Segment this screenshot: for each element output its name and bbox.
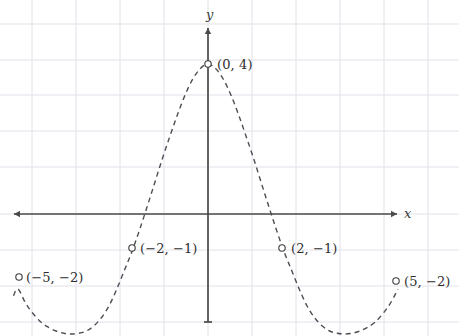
grid-lines [0,0,459,336]
point-marker [279,245,285,251]
axis-arrowhead [391,211,397,217]
axis-arrowhead [14,211,20,217]
graph-figure: x y (−5, −2)(−2, −1)(0, 4)(2, −1)(5, −2) [0,0,459,336]
point-marker [16,274,22,280]
axis-arrowhead [205,28,211,34]
coordinate-plane [0,0,459,336]
point-coordinate-label: (2, −1) [291,241,338,256]
x-axis-label: x [404,206,411,221]
point-marker [393,278,399,284]
point-marker [129,245,135,251]
point-coordinate-label: (−5, −2) [26,270,84,285]
y-axis-label: y [206,7,213,22]
point-marker [205,61,211,67]
point-coordinate-label: (0, 4) [217,57,253,72]
point-coordinate-label: (5, −2) [404,274,451,289]
point-coordinate-label: (−2, −1) [140,241,198,256]
